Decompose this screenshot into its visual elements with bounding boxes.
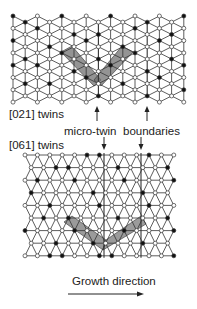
atom-filled <box>23 229 27 233</box>
atom-open <box>79 166 83 170</box>
atom-open <box>135 229 139 233</box>
atom-open <box>159 203 163 207</box>
atom-open <box>84 100 88 104</box>
atom-open <box>85 203 89 207</box>
atom-filled <box>72 32 76 36</box>
atom-filled <box>172 254 176 258</box>
atom-filled <box>73 229 77 233</box>
atom-filled <box>145 20 149 24</box>
atom-filled <box>48 45 52 49</box>
atom-open <box>135 254 139 258</box>
atom-open <box>96 82 100 86</box>
atom-filled <box>96 94 100 98</box>
atom-open <box>182 39 186 43</box>
atom-open <box>110 229 114 233</box>
atom-open <box>166 241 170 245</box>
atom-open <box>147 254 151 258</box>
atom-open <box>133 63 137 67</box>
atom-filled <box>96 57 100 61</box>
label-growth-direction: Growth direction <box>72 275 156 287</box>
atom-filled <box>23 20 27 24</box>
atom-open <box>128 191 132 195</box>
atom-filled <box>110 254 114 258</box>
atom-open <box>35 100 39 104</box>
atom-open <box>48 229 52 233</box>
atom-filled <box>73 178 77 182</box>
atom-open <box>121 32 125 36</box>
atom-open <box>145 82 149 86</box>
atom-open <box>182 100 186 104</box>
atom-open <box>66 241 70 245</box>
atom-open <box>110 153 114 157</box>
atom-filled <box>54 241 58 245</box>
atom-filled <box>48 203 52 207</box>
atom-open <box>60 26 64 30</box>
atom-filled <box>11 39 15 43</box>
atom-open <box>157 26 161 30</box>
atom-filled <box>170 32 174 36</box>
atom-open <box>133 39 137 43</box>
atom-open <box>104 241 108 245</box>
atom-open <box>35 14 39 18</box>
atom-open <box>121 57 125 61</box>
atom-filled <box>97 153 101 157</box>
atom-filled <box>182 88 186 92</box>
atom-open <box>104 216 108 220</box>
atom-open <box>157 51 161 55</box>
atom-filled <box>157 39 161 43</box>
atom-open <box>133 76 137 80</box>
atom-open <box>23 153 27 157</box>
atom-open <box>35 229 39 233</box>
atom-filled <box>116 166 120 170</box>
atom-open <box>23 69 27 73</box>
atom-open <box>84 26 88 30</box>
atom-filled <box>35 26 39 30</box>
atom-filled <box>172 229 176 233</box>
twin-band-right <box>94 46 133 86</box>
atom-open <box>96 69 100 73</box>
atom-open <box>60 63 64 67</box>
atom-filled <box>11 63 15 67</box>
atom-open <box>96 45 100 49</box>
atom-open <box>157 88 161 92</box>
atom-open <box>109 39 113 43</box>
atom-filled <box>172 178 176 182</box>
atom-filled <box>97 203 101 207</box>
atom-filled <box>54 166 58 170</box>
atom-open <box>73 254 77 258</box>
atom-open <box>170 69 174 73</box>
atom-open <box>72 94 76 98</box>
atom-filled <box>48 82 52 86</box>
atom-open <box>42 241 46 245</box>
atom-open <box>48 20 52 24</box>
atom-filled <box>66 166 70 170</box>
atom-open <box>110 203 114 207</box>
atom-open <box>54 216 58 220</box>
atom-open <box>135 178 139 182</box>
atom-open <box>35 39 39 43</box>
atom-filled <box>97 254 101 258</box>
atom-open <box>48 94 52 98</box>
growth-direction-arrow <box>68 292 144 297</box>
atom-filled <box>84 76 88 80</box>
atom-open <box>153 216 157 220</box>
atom-open <box>157 63 161 67</box>
atom-open <box>72 82 76 86</box>
atom-open <box>84 88 88 92</box>
label-micro-twin: micro-twin <box>64 125 116 137</box>
atom-open <box>121 69 125 73</box>
atom-open <box>135 203 139 207</box>
atom-open <box>128 216 132 220</box>
atom-filled <box>91 191 95 195</box>
atom-filled <box>157 76 161 80</box>
atom-open <box>133 100 137 104</box>
atom-open <box>145 32 149 36</box>
atom-filled <box>145 69 149 73</box>
atom-filled <box>42 216 46 220</box>
atom-filled <box>48 254 52 258</box>
atom-filled <box>170 57 174 61</box>
atom-open <box>141 166 145 170</box>
atom-open <box>23 45 27 49</box>
atom-open <box>79 191 83 195</box>
twin-band-right <box>103 216 146 250</box>
